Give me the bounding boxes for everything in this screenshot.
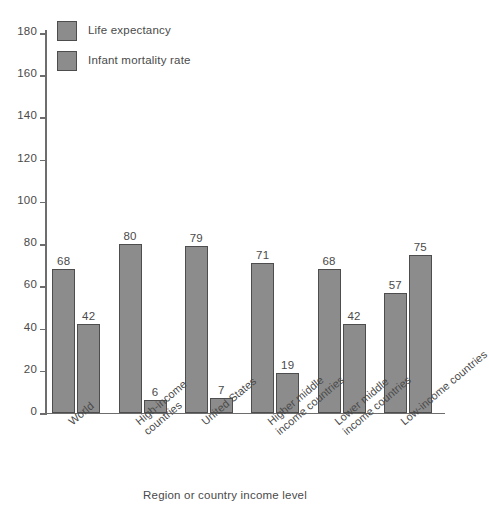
bar[interactable]: 80 <box>119 244 142 413</box>
bar-value-label: 42 <box>347 310 360 322</box>
y-axis-tick-label: 40 <box>24 321 37 333</box>
bar-value-label: 79 <box>190 232 203 244</box>
bar-group: 7119 <box>251 33 299 413</box>
bar-value-label: 80 <box>123 230 136 242</box>
bar-value-label: 19 <box>281 359 294 371</box>
bar[interactable]: 71 <box>251 263 274 413</box>
legend-swatch <box>57 51 77 71</box>
x-axis-title: Region or country income level <box>0 489 450 501</box>
bar-group: 6842 <box>52 33 100 413</box>
y-axis-tick-label: 100 <box>17 194 37 206</box>
bar-value-label: 42 <box>82 310 95 322</box>
y-axis-tick-label: 0 <box>30 405 37 417</box>
y-axis-tick-label: 60 <box>24 278 37 290</box>
y-axis-tick-label: 180 <box>17 25 37 37</box>
y-axis-tick-label: 80 <box>24 236 37 248</box>
y-axis-tick-label: 160 <box>17 67 37 79</box>
legend-label: Life expectancy <box>88 24 171 36</box>
y-axis-tick-label: 20 <box>24 363 37 375</box>
bar-group: 797 <box>185 33 233 413</box>
plot-area: 6842806797711968425775 <box>46 33 444 413</box>
bar-group: 5775 <box>384 33 432 413</box>
bar-group: 806 <box>119 33 167 413</box>
legend-label: Infant mortality rate <box>88 54 191 66</box>
bar-value-label: 57 <box>389 279 402 291</box>
y-axis-tick-label: 120 <box>17 152 37 164</box>
bar-value-label: 68 <box>57 255 70 267</box>
bar[interactable]: 68 <box>52 269 75 413</box>
bar-value-label: 7 <box>218 384 225 396</box>
legend-swatch <box>57 21 77 41</box>
bar[interactable]: 75 <box>409 255 432 413</box>
y-axis-tick-label: 140 <box>17 109 37 121</box>
bar-value-label: 75 <box>414 241 427 253</box>
bar-value-label: 71 <box>256 249 269 261</box>
bar-group: 6842 <box>318 33 366 413</box>
bar-value-label: 68 <box>322 255 335 267</box>
